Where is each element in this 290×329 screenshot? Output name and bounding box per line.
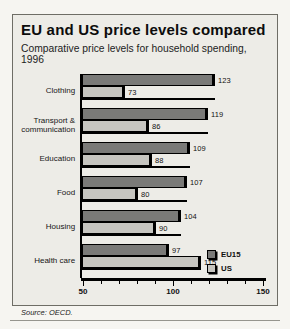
chart-panel: EU and US price levels compared Comparat… — [12, 14, 278, 306]
legend: EU15US — [207, 250, 241, 278]
bar-us — [82, 120, 147, 132]
bar-track: 104 — [82, 210, 269, 222]
axis-tick — [83, 281, 84, 286]
chart-row: Food10780 — [21, 176, 269, 210]
legend-label: US — [221, 264, 232, 273]
bar-group-shadow — [82, 132, 208, 134]
legend-swatch-eu15 — [207, 250, 216, 259]
bar-value: 88 — [155, 156, 163, 165]
legend-swatch-us — [207, 264, 216, 273]
bar-track: 109 — [82, 142, 269, 154]
bar-group-shadow — [82, 234, 181, 236]
bar-track: 119 — [82, 108, 269, 120]
axis-tick-label: 100 — [166, 287, 179, 296]
category-bars: 10780 — [80, 176, 269, 210]
bar-us — [82, 188, 136, 200]
axis-tick — [263, 281, 264, 286]
axis-tick-label: 50 — [79, 287, 88, 296]
chart-row: Education10988 — [21, 142, 269, 176]
chart-subtitle: Comparative price levels for household s… — [21, 43, 269, 66]
axis-tick — [209, 281, 210, 284]
category-bars: 11986 — [80, 108, 269, 142]
axis-tick — [101, 281, 102, 284]
source-note: Source: OECD. — [21, 308, 269, 317]
bar-us — [82, 256, 199, 268]
bar-track: 73 — [82, 86, 269, 98]
chart-row: Clothing12373 — [21, 74, 269, 108]
category-label: Transport & communication — [21, 108, 80, 142]
bar-group-shadow — [82, 268, 201, 270]
axis-tick — [245, 281, 246, 284]
axis-tick — [227, 281, 228, 284]
category-label: Clothing — [21, 74, 80, 108]
bar-group-shadow — [82, 200, 187, 202]
bar-group-shadow — [82, 166, 190, 168]
category-label: Housing — [21, 210, 80, 244]
bar-value: 109 — [193, 144, 206, 153]
bar-value: 90 — [159, 224, 167, 233]
bar-value: 97 — [172, 246, 180, 255]
chart-row: Housing10490 — [21, 210, 269, 244]
category-label: Health care — [21, 244, 80, 278]
bar-eu15 — [82, 210, 179, 222]
bar-value: 104 — [184, 212, 197, 221]
bar-us — [82, 86, 123, 98]
bar-value: 119 — [211, 110, 223, 119]
bar-value: 86 — [152, 122, 160, 131]
bar-track: 107 — [82, 176, 269, 188]
bar-track: 123 — [82, 74, 269, 86]
axis-tick — [155, 281, 156, 284]
category-bars: 10988 — [80, 142, 269, 176]
bar-eu15 — [82, 176, 185, 188]
bar-eu15 — [82, 142, 188, 154]
bar-eu15 — [82, 108, 206, 120]
axis-tick — [137, 281, 138, 284]
axis-tick — [173, 281, 174, 286]
page-divider — [10, 320, 280, 321]
bar-group-shadow — [82, 98, 215, 100]
bar-value: 73 — [128, 88, 136, 97]
legend-label: EU15 — [221, 250, 241, 259]
category-bars: 12373 — [80, 74, 269, 108]
bar-us — [82, 222, 154, 234]
axis-tick-label: 150 — [256, 287, 269, 296]
bar-eu15 — [82, 244, 167, 256]
bar-track: 86 — [82, 120, 269, 132]
bar-chart: Clothing12373Transport & communication11… — [21, 74, 269, 304]
axis-tick — [119, 281, 120, 284]
bar-track: 88 — [82, 154, 269, 166]
bar-eu15 — [82, 74, 213, 86]
category-label: Food — [21, 176, 80, 210]
chart-row: Transport & communication11986 — [21, 108, 269, 142]
axis-tick — [191, 281, 192, 284]
x-axis: 50100150 — [81, 278, 273, 304]
legend-item: US — [207, 264, 241, 273]
bar-us — [82, 154, 150, 166]
bar-track: 90 — [82, 222, 269, 234]
bar-value: 107 — [190, 178, 203, 187]
bar-value: 80 — [141, 190, 149, 199]
chart-title: EU and US price levels compared — [21, 22, 269, 39]
category-label: Education — [21, 142, 80, 176]
legend-item: EU15 — [207, 250, 241, 259]
bar-track: 80 — [82, 188, 269, 200]
category-bars: 10490 — [80, 210, 269, 244]
bar-value: 123 — [218, 76, 231, 85]
